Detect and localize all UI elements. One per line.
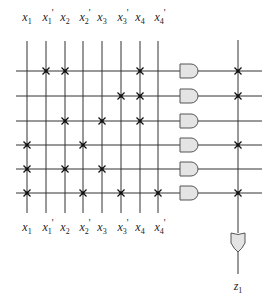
- and-gate-3: [180, 114, 198, 128]
- and-gate-5: [180, 162, 198, 176]
- input-label-bottom-1: x1: [21, 220, 31, 236]
- and-gate-1: [180, 64, 198, 78]
- input-label-bottom-8: x4': [153, 217, 165, 236]
- input-label-top-5: x3: [96, 10, 106, 26]
- input-label-top-7: x4: [134, 10, 144, 26]
- input-label-top-4: x2': [78, 7, 90, 26]
- input-label-bottom-5: x3: [96, 220, 106, 236]
- input-label-bottom-4: x2': [78, 217, 90, 236]
- and-gate-4: [180, 138, 198, 152]
- input-label-bottom-6: x3': [116, 217, 128, 236]
- input-label-bottom-7: x4: [134, 220, 144, 236]
- pla-diagram: x1x1x1'x1'x2x2x2'x2'x3x3x3'x3'x4x4x4'x4'…: [0, 0, 276, 301]
- input-label-top-3: x2: [59, 10, 69, 26]
- input-label-top-2: x1': [41, 7, 53, 26]
- and-gate-2: [180, 89, 198, 103]
- and-gate-6: [180, 186, 198, 200]
- input-label-top-1: x1: [21, 10, 31, 26]
- or-gate: [231, 233, 245, 252]
- input-label-bottom-2: x1': [41, 217, 53, 236]
- input-label-bottom-3: x2: [59, 220, 69, 236]
- output-label-z1: z1: [233, 279, 243, 295]
- input-label-top-6: x3': [116, 7, 128, 26]
- input-label-top-8: x4': [153, 7, 165, 26]
